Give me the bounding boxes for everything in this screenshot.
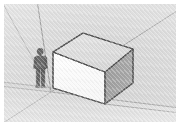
figure-torso [35, 56, 46, 69]
figure-right-leg [41, 68, 45, 85]
sketchup-window [0, 0, 180, 126]
scene-canvas[interactable] [4, 4, 176, 122]
figure-right-arm [45, 57, 47, 69]
figure-left-leg [36, 68, 40, 85]
modeling-viewport[interactable] [4, 4, 176, 122]
